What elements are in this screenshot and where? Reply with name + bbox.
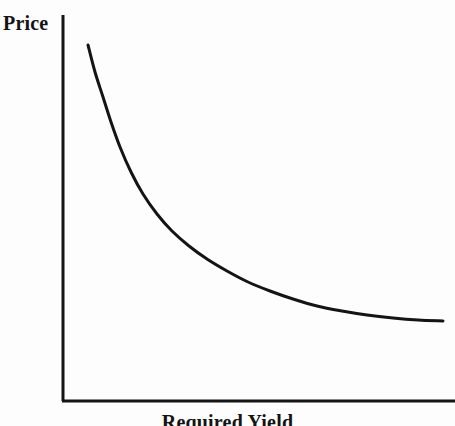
chart-canvas [0, 0, 455, 426]
price-required-yield-figure: Price Required Yield [0, 0, 455, 426]
price-axis-label: Price [3, 13, 48, 33]
required-yield-axis-label: Required Yield [0, 412, 455, 426]
price-curve-line [88, 45, 443, 321]
